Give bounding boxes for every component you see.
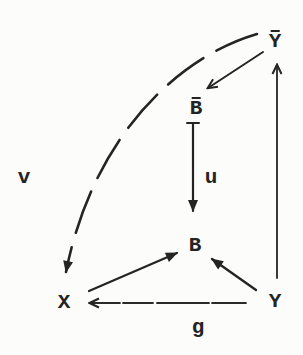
node-y: Y [269,291,282,313]
node-b-bar: B [190,98,203,120]
edge-ybar-to-x-dashed-arc [66,34,257,272]
edge-label-v: v [18,167,31,189]
node-x: X [58,292,71,314]
edge-y-to-b [212,259,256,290]
edge-x-to-b [89,253,177,291]
edge-label-g: g [192,317,205,339]
scanned-diagram-page: Y B v u B X Y g [0,0,303,355]
node-y-bar: Y [269,31,282,53]
node-b: B [189,235,202,257]
diagram-arrows-layer [0,0,303,355]
edge-ybar-to-bbar [208,52,263,88]
edge-label-u: u [205,167,218,189]
